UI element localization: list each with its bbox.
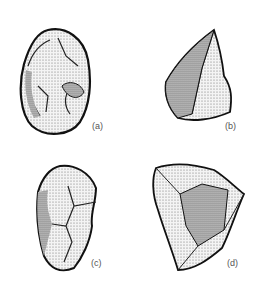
panel-label-c: (c): [91, 258, 102, 268]
panel-label-b: (b): [225, 121, 236, 131]
stone-tool-a-illustration: [18, 26, 94, 138]
panel-label-d: (d): [227, 258, 238, 268]
stone-tool-b-illustration: [162, 28, 234, 124]
stone-tool-d-illustration: [150, 160, 246, 274]
panel-label-a: (a): [92, 121, 103, 131]
